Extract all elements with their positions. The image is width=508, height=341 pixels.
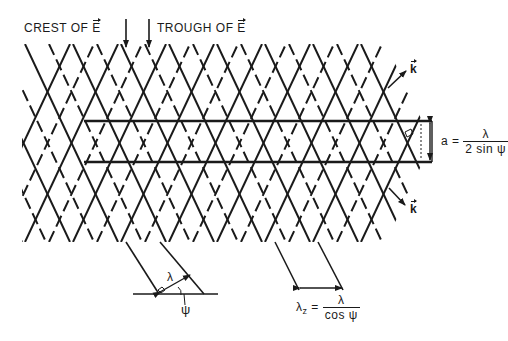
lambda-z-fraction: λ cos ψ	[323, 293, 360, 322]
label-arrows	[126, 19, 149, 47]
k-upper-label: k	[410, 62, 417, 76]
k-upper-text: k	[410, 62, 417, 76]
e-vector-symbol: E	[92, 21, 101, 35]
a-numerator: λ	[463, 127, 508, 142]
crest-text: CREST OF	[24, 21, 88, 35]
lambda-z-subscript: z	[303, 306, 308, 316]
lambda-z-formula: λz = λ cos ψ	[296, 293, 360, 322]
a-symbol: a =	[441, 134, 460, 148]
lambda-z-numerator: λ	[323, 293, 360, 308]
crest-lines-up	[0, 44, 454, 242]
crest-label: CREST OF E	[24, 21, 101, 35]
psi-label: ψ	[181, 302, 191, 317]
lambda-z-denominator: cos ψ	[323, 308, 360, 322]
crest-lines-down	[0, 44, 454, 242]
psi-text: ψ	[181, 302, 191, 317]
e-vector-symbol: E	[237, 21, 246, 35]
k-upper-arrow	[388, 71, 406, 88]
a-formula: a = λ 2 sin ψ	[441, 127, 508, 156]
lambda-label: λ	[167, 270, 174, 284]
trough-label: TROUGH OF E	[157, 21, 246, 35]
a-fraction: λ 2 sin ψ	[463, 127, 508, 156]
lambda-z-construction	[275, 242, 343, 290]
k-lower-label: k	[410, 202, 417, 216]
lambda-z-equals: =	[311, 300, 319, 314]
wavefront-grid	[0, 44, 454, 242]
trough-text: TROUGH OF	[157, 21, 234, 35]
lambda-text: λ	[167, 270, 174, 284]
a-denominator: 2 sin ψ	[463, 142, 508, 156]
k-lower-arrow	[389, 188, 405, 205]
k-lower-text: k	[410, 202, 417, 216]
